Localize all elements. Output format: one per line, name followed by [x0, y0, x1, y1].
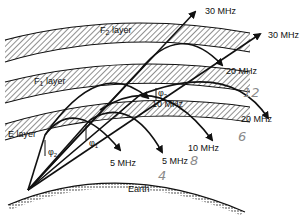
- f1-layer-label: F1 layer: [34, 76, 65, 87]
- handwritten-12: 12: [243, 85, 260, 100]
- ray-20mhz-f1: [28, 82, 268, 190]
- freq-5mhz-right: 5 MHz: [162, 156, 189, 166]
- phi2-label: φ2: [48, 147, 58, 158]
- freq-20mhz-lower: 20 MHz: [241, 114, 273, 124]
- phi3-label: φ3: [158, 88, 168, 99]
- earth-surface: [8, 183, 245, 215]
- freq-30mhz-top: 30 MHz: [205, 6, 237, 16]
- freq-10mhz-upper: 10 MHz: [152, 99, 184, 109]
- phi1-label: φ1: [89, 138, 99, 149]
- handwritten-6: 6: [238, 129, 246, 144]
- earth-label: Earth: [128, 184, 150, 194]
- freq-30mhz-right: 30 MHz: [268, 30, 300, 40]
- ionosphere-diagram: F2 layer F1 layer E layer Earth φ2 φ1 φ3…: [0, 0, 304, 216]
- freq-20mhz-upper: 20 MHz: [226, 66, 258, 76]
- handwritten-8: 8: [190, 153, 198, 168]
- e-layer-label: E layer: [8, 129, 36, 139]
- handwritten-4: 4: [158, 168, 166, 183]
- f2-layer-label: F2 layer: [100, 25, 131, 36]
- freq-5mhz-left: 5 MHz: [110, 158, 137, 168]
- freq-10mhz-lower: 10 MHz: [188, 143, 220, 153]
